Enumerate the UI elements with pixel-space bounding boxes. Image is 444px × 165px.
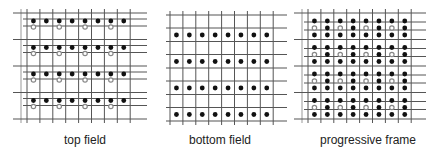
chroma-sample-circle [83, 25, 87, 29]
progressive-frame-grid [290, 0, 444, 130]
sample-dot [377, 112, 382, 117]
sample-dot [402, 33, 407, 38]
chroma-sample-circle [109, 104, 113, 108]
chroma-sample-circle [364, 105, 368, 109]
chroma-sample-circle [57, 51, 61, 55]
sample-dot [121, 45, 126, 50]
sample-dot [364, 19, 369, 24]
sample-dot [351, 52, 356, 57]
chroma-sample-circle [364, 52, 368, 56]
sample-dot [200, 112, 205, 117]
sample-dot [377, 19, 382, 24]
sample-dot [174, 112, 179, 117]
bottom-field-caption: bottom field [175, 133, 265, 147]
sample-dot [264, 112, 269, 117]
sample-dot [226, 112, 231, 117]
sample-dot [377, 33, 382, 38]
sample-dot [96, 98, 101, 103]
sample-dot [402, 52, 407, 57]
sample-dot [338, 45, 343, 50]
sample-dot [83, 45, 88, 50]
sample-dot [402, 79, 407, 84]
sample-dot [83, 98, 88, 103]
sample-dot [57, 19, 62, 24]
sample-dot [200, 59, 205, 64]
top-field-panel: top field [0, 0, 150, 165]
sample-dot [121, 98, 126, 103]
sample-dot [239, 112, 244, 117]
sample-dot [351, 98, 356, 103]
sample-dot [213, 33, 218, 38]
sample-dot [57, 45, 62, 50]
sample-dot [377, 45, 382, 50]
sample-dot [174, 86, 179, 91]
sample-dot [402, 19, 407, 24]
sample-dot [402, 45, 407, 50]
sample-dot [312, 98, 317, 103]
sample-dot [57, 98, 62, 103]
chroma-sample-circle [390, 52, 394, 56]
top-field-caption: top field [45, 133, 125, 147]
chroma-sample-circle [31, 104, 35, 108]
chroma-sample-circle [312, 52, 316, 56]
sample-dot [239, 33, 244, 38]
sample-dot [338, 112, 343, 117]
sample-dot [338, 33, 343, 38]
chroma-sample-circle [390, 79, 394, 83]
sample-dot [364, 86, 369, 91]
sample-dot [251, 112, 256, 117]
sample-dot [364, 112, 369, 117]
sample-dot [174, 33, 179, 38]
sample-dot [187, 112, 192, 117]
sample-dot [312, 72, 317, 77]
sample-dot [402, 72, 407, 77]
top-field-grid [0, 0, 150, 130]
sample-dot [402, 59, 407, 64]
sample-dot [312, 59, 317, 64]
sample-dot [325, 52, 330, 57]
sample-dot [187, 59, 192, 64]
sample-dot [31, 45, 36, 50]
sample-dot [402, 98, 407, 103]
sample-dot [351, 79, 356, 84]
sample-dot [351, 33, 356, 38]
sample-dot [325, 79, 330, 84]
sample-dot [377, 72, 382, 77]
sample-dot [325, 112, 330, 117]
progressive-frame-panel: progressive frame [290, 0, 444, 165]
sample-dot [338, 98, 343, 103]
sample-dot [351, 59, 356, 64]
sample-dot [108, 19, 113, 24]
sample-dot [325, 98, 330, 103]
sample-dot [351, 86, 356, 91]
chroma-sample-circle [338, 52, 342, 56]
chroma-sample-circle [338, 105, 342, 109]
chroma-sample-circle [109, 51, 113, 55]
sample-dot [389, 19, 394, 24]
sample-dot [251, 59, 256, 64]
sample-dot [402, 105, 407, 110]
chroma-sample-circle [31, 51, 35, 55]
chroma-sample-circle [57, 78, 61, 82]
sample-dot [174, 59, 179, 64]
sample-dot [389, 33, 394, 38]
sample-dot [312, 33, 317, 38]
sample-dot [389, 112, 394, 117]
sample-dot [121, 19, 126, 24]
sample-dot [338, 72, 343, 77]
sample-dot [83, 19, 88, 24]
sample-dot [70, 98, 75, 103]
chroma-sample-circle [83, 78, 87, 82]
sample-dot [226, 33, 231, 38]
sample-dot [325, 33, 330, 38]
sample-dot [44, 72, 49, 77]
chroma-sample-circle [109, 78, 113, 82]
chroma-sample-circle [390, 105, 394, 109]
sample-dot [44, 45, 49, 50]
sample-dot [264, 33, 269, 38]
sample-dot [200, 86, 205, 91]
sample-dot [377, 52, 382, 57]
sample-dot [108, 45, 113, 50]
sample-dot [351, 26, 356, 31]
progressive-frame-caption: progressive frame [308, 133, 428, 147]
